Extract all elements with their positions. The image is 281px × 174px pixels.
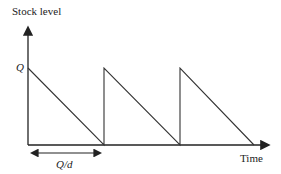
y-axis-label: Stock level: [12, 5, 61, 17]
x-axis-label: Time: [240, 152, 263, 164]
stock-level-sawtooth: [28, 68, 254, 145]
interval-label: Q/d: [56, 158, 73, 170]
sawtooth-diagram: [0, 0, 281, 174]
level-label: Q: [16, 61, 24, 73]
